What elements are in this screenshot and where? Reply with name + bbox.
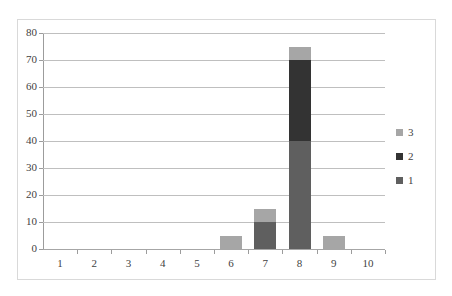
- gridline-60: [43, 87, 385, 88]
- legend-label-2: 2: [408, 151, 414, 162]
- x-tick-3: [146, 250, 147, 254]
- y-tick-30: [39, 168, 43, 169]
- y-tick-70: [39, 60, 43, 61]
- y-tick-80: [39, 33, 43, 34]
- legend-label-3: 3: [408, 127, 414, 138]
- x-axis-label-9: 9: [317, 258, 351, 269]
- gridline-70: [43, 60, 385, 61]
- x-axis-label-10: 10: [351, 258, 385, 269]
- x-axis-label-6: 6: [214, 258, 248, 269]
- y-tick-10: [39, 222, 43, 223]
- bar-segment-8-series-1[interactable]: [289, 141, 311, 249]
- x-axis-label-5: 5: [180, 258, 214, 269]
- y-axis-label-20: 20: [7, 189, 37, 200]
- x-tick-7: [282, 250, 283, 254]
- x-tick-5: [214, 250, 215, 254]
- legend-item-1[interactable]: 1: [396, 168, 436, 192]
- x-axis-label-4: 4: [146, 258, 180, 269]
- bar-segment-8-series-2[interactable]: [289, 60, 311, 141]
- y-tick-50: [39, 114, 43, 115]
- y-axis-label-0: 0: [7, 243, 37, 254]
- y-axis-labels: 01020304050607080: [0, 0, 37, 296]
- x-axis-label-1: 1: [43, 258, 77, 269]
- legend-item-2[interactable]: 2: [396, 144, 436, 168]
- x-axis-label-8: 8: [283, 258, 317, 269]
- x-axis-label-3: 3: [112, 258, 146, 269]
- x-tick-4: [180, 250, 181, 254]
- x-tick-2: [111, 250, 112, 254]
- y-tick-20: [39, 195, 43, 196]
- y-axis-label-70: 70: [7, 54, 37, 65]
- y-axis-label-10: 10: [7, 216, 37, 227]
- x-tick-6: [248, 250, 249, 254]
- y-axis-label-80: 80: [7, 27, 37, 38]
- x-tick-8: [317, 250, 318, 254]
- legend-label-1: 1: [408, 175, 414, 186]
- bar-segment-7-series-3[interactable]: [254, 209, 276, 223]
- bar-segment-6-series-3[interactable]: [220, 236, 242, 250]
- y-tick-40: [39, 141, 43, 142]
- y-axis-label-30: 30: [7, 162, 37, 173]
- y-tick-0: [39, 249, 43, 250]
- legend-item-3[interactable]: 3: [396, 120, 436, 144]
- legend-swatch-icon-1: [396, 177, 403, 184]
- gridline-50: [43, 114, 385, 115]
- legend-swatch-icon-3: [396, 129, 403, 136]
- x-tick-9: [351, 250, 352, 254]
- bar-segment-7-series-1[interactable]: [254, 222, 276, 249]
- x-tick-1: [77, 250, 78, 254]
- y-axis-label-50: 50: [7, 108, 37, 119]
- x-tick-10: [385, 250, 386, 254]
- chart-legend: 321: [396, 120, 436, 192]
- gridline-10: [43, 222, 385, 223]
- legend-swatch-icon-2: [396, 153, 403, 160]
- x-axis-label-2: 2: [77, 258, 111, 269]
- gridline-30: [43, 168, 385, 169]
- gridline-20: [43, 195, 385, 196]
- y-axis-label-40: 40: [7, 135, 37, 146]
- plot-area: [43, 33, 385, 249]
- x-axis-label-7: 7: [248, 258, 282, 269]
- gridline-40: [43, 141, 385, 142]
- y-tick-60: [39, 87, 43, 88]
- gridline-80: [43, 33, 385, 34]
- bar-segment-9-series-3[interactable]: [323, 236, 345, 250]
- bar-segment-8-series-3[interactable]: [289, 47, 311, 61]
- y-axis-label-60: 60: [7, 81, 37, 92]
